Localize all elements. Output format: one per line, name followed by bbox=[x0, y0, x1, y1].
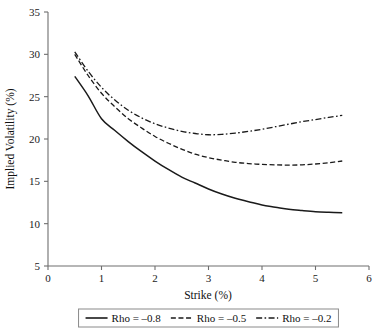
x-tick-label: 3 bbox=[206, 272, 212, 284]
x-axis-title: Strike (%) bbox=[184, 289, 232, 302]
y-tick-label: 15 bbox=[29, 175, 41, 187]
y-tick-label: 5 bbox=[35, 260, 41, 272]
chart-legend[interactable]: Rho = –0.8Rho = –0.5Rho = –0.2 bbox=[79, 309, 339, 327]
chart-figure: 5101520253035 0123456 Strike (%) Implied… bbox=[0, 0, 385, 333]
legend-label-2[interactable]: Rho = –0.5 bbox=[197, 312, 247, 324]
x-tick-label: 5 bbox=[313, 272, 319, 284]
y-tick-label: 35 bbox=[29, 6, 41, 18]
y-tick-label: 20 bbox=[29, 133, 41, 145]
x-tick-label: 6 bbox=[366, 272, 372, 284]
legend-label-1[interactable]: Rho = –0.8 bbox=[112, 312, 162, 324]
y-tick-label: 10 bbox=[29, 218, 41, 230]
plot-background bbox=[0, 0, 385, 333]
implied-volatility-chart: 5101520253035 0123456 Strike (%) Implied… bbox=[0, 0, 385, 333]
legend-label-3[interactable]: Rho = –0.2 bbox=[282, 312, 331, 324]
y-tick-label: 30 bbox=[29, 48, 41, 60]
y-tick-label: 25 bbox=[29, 91, 41, 103]
x-tick-label: 2 bbox=[152, 272, 158, 284]
x-tick-label: 1 bbox=[99, 272, 105, 284]
x-tick-label: 4 bbox=[259, 272, 265, 284]
y-axis-title: Implied Volatility (%) bbox=[4, 88, 17, 189]
x-tick-label: 0 bbox=[45, 272, 51, 284]
